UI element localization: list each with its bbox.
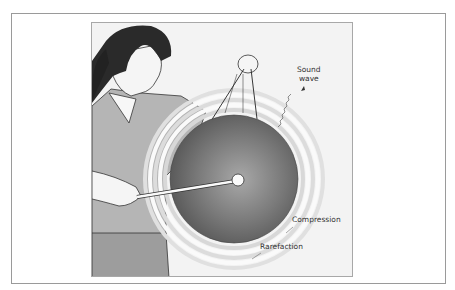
sound-wave-line2: wave bbox=[299, 74, 319, 83]
label-compression: Compression bbox=[292, 215, 341, 224]
label-rarefaction: Rarefaction bbox=[260, 242, 303, 251]
label-sound-wave: Sound wave bbox=[297, 65, 321, 83]
illustration-svg bbox=[92, 23, 353, 277]
gong-illustration: Sound wave Compression Rarefaction bbox=[91, 22, 353, 277]
sound-wave-line1: Sound bbox=[297, 65, 321, 74]
